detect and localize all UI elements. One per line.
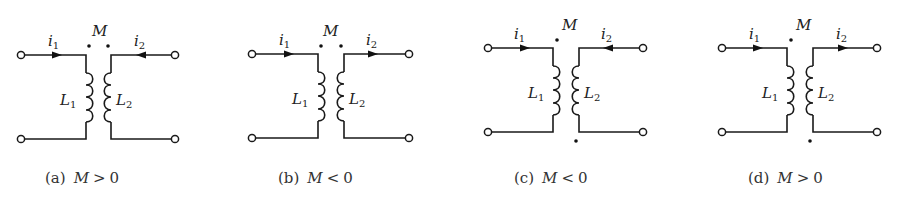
label-L2: L2 — [817, 84, 834, 103]
label-L2: L2 — [115, 91, 132, 110]
inductor-L1-coil-icon — [553, 66, 560, 115]
wire-primary-top — [492, 48, 553, 66]
terminal-bottom-right — [873, 128, 880, 135]
wire-primary-bottom — [256, 121, 318, 138]
label-L1: L1 — [291, 90, 308, 109]
label-L2: L2 — [348, 90, 365, 109]
current-arrow-i2-right-icon — [838, 45, 848, 52]
inductor-L1-coil-icon — [86, 73, 93, 122]
label-mutual-M: M — [91, 22, 108, 40]
label-L1: L1 — [59, 91, 76, 110]
wire-primary-top — [726, 48, 787, 66]
label-i2: i2 — [601, 25, 612, 44]
polarity-dot-L2 — [339, 44, 343, 48]
current-arrow-i1-right-icon — [753, 45, 763, 52]
terminal-top-right — [405, 50, 412, 57]
polarity-dot-L1 — [555, 38, 559, 42]
wire-primary-top — [256, 54, 318, 72]
coupled-inductor-figure: i1 i2 M L1 L2 (a)M>0 i1 i2 M L1 L2 (b)M<… — [0, 0, 900, 209]
label-i1: i1 — [514, 25, 525, 44]
terminal-top-right — [873, 44, 880, 51]
polarity-dot-L1 — [87, 44, 91, 48]
label-i2: i2 — [836, 25, 847, 44]
inductor-L1-coil-icon — [318, 72, 325, 121]
inductor-L2-coil-icon — [104, 73, 111, 122]
label-mutual-M: M — [561, 16, 578, 34]
terminal-bottom-left — [17, 135, 24, 142]
terminal-top-left — [248, 50, 255, 57]
label-i1: i1 — [48, 32, 59, 51]
inductor-L2-coil-icon — [572, 66, 579, 115]
label-mutual-M: M — [795, 16, 812, 34]
wire-secondary-top — [344, 54, 405, 72]
wire-secondary-bottom — [813, 115, 873, 132]
label-i2: i2 — [366, 31, 377, 50]
current-arrow-i1-right-icon — [52, 52, 62, 59]
terminal-bottom-right — [405, 134, 412, 141]
inductor-L1-coil-icon — [787, 66, 794, 115]
terminal-top-left — [484, 44, 491, 51]
wire-secondary-top — [579, 48, 639, 66]
label-i2: i2 — [134, 32, 145, 51]
wire-primary-bottom — [25, 122, 86, 139]
terminal-top-left — [17, 51, 24, 58]
inductor-L2-coil-icon — [806, 66, 813, 115]
terminal-bottom-right — [639, 128, 646, 135]
wire-secondary-bottom — [344, 121, 405, 138]
terminal-bottom-left — [248, 134, 255, 141]
polarity-dot-L2 — [808, 139, 812, 143]
terminal-bottom-left — [718, 128, 725, 135]
wire-secondary-bottom — [579, 115, 639, 132]
caption-a: (a)M>0 — [45, 169, 119, 187]
wire-secondary-bottom — [111, 122, 171, 139]
terminal-top-left — [718, 44, 725, 51]
panel-c: i1 i2 M L1 L2 (c)M<0 — [484, 16, 646, 187]
polarity-dot-L1 — [319, 44, 323, 48]
terminal-top-right — [171, 51, 178, 58]
current-arrow-i1-right-icon — [284, 51, 294, 58]
panel-b: i1 i2 M L1 L2 (b)M<0 — [248, 22, 412, 187]
caption-d: (d)M>0 — [748, 169, 823, 187]
current-arrow-i2-left-icon — [603, 45, 613, 52]
wire-secondary-top — [813, 48, 873, 66]
label-L1: L1 — [761, 84, 778, 103]
current-arrow-i1-right-icon — [520, 45, 530, 52]
inductor-L2-coil-icon — [337, 72, 344, 121]
label-mutual-M: M — [322, 22, 339, 40]
wire-primary-top — [25, 55, 86, 73]
polarity-dot-L2 — [106, 44, 110, 48]
panel-a: i1 i2 M L1 L2 (a)M>0 — [17, 22, 178, 187]
wire-primary-bottom — [726, 115, 787, 132]
wire-primary-bottom — [492, 115, 553, 132]
wire-secondary-top — [111, 55, 171, 73]
label-i1: i1 — [749, 25, 760, 44]
label-L2: L2 — [583, 84, 600, 103]
polarity-dot-L1 — [789, 38, 793, 42]
current-arrow-i2-right-icon — [368, 51, 378, 58]
polarity-dot-L2 — [574, 139, 578, 143]
caption-b: (b)M<0 — [278, 169, 353, 187]
panel-d: i1 i2 M L1 L2 (d)M>0 — [718, 16, 880, 187]
current-arrow-i2-left-icon — [136, 52, 146, 59]
terminal-bottom-left — [484, 128, 491, 135]
terminal-bottom-right — [171, 135, 178, 142]
terminal-top-right — [639, 44, 646, 51]
label-L1: L1 — [527, 84, 544, 103]
label-i1: i1 — [279, 31, 290, 50]
caption-c: (c)M<0 — [514, 169, 588, 187]
